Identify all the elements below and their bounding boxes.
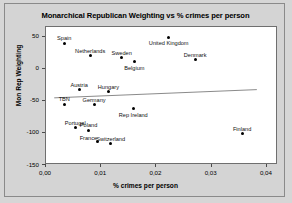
x-axis-label: % crimes per person	[5, 182, 286, 189]
data-point-label: Austria	[70, 82, 87, 88]
data-point	[167, 36, 170, 39]
x-tick-mark	[45, 164, 46, 167]
data-point-label: Netherlands	[75, 48, 105, 54]
data-point-label: Belgium	[124, 65, 144, 71]
data-point-label: Finland	[233, 126, 251, 132]
x-tick-mark	[100, 164, 101, 167]
data-point-label: Spain	[57, 35, 71, 41]
y-tick-label: 50	[11, 32, 39, 39]
y-tick-mark	[42, 68, 45, 69]
data-point	[241, 132, 244, 135]
x-tick-label: 0,00	[31, 169, 59, 176]
x-tick-mark	[155, 164, 156, 167]
y-tick-label: -100	[11, 128, 39, 135]
plot-area: SpainNetherlandsSwedenBelgiumUnited King…	[45, 26, 277, 164]
data-point-label: TBN	[59, 96, 70, 102]
data-point	[93, 103, 96, 106]
data-point	[132, 107, 135, 110]
y-tick-label: -50	[11, 96, 39, 103]
data-point-label: Hungary	[98, 84, 119, 90]
data-point-label: United Kingdom	[149, 40, 189, 46]
x-tick-mark	[266, 164, 267, 167]
data-point-label: Sweden	[112, 50, 132, 56]
x-tick-label: 0,03	[197, 169, 225, 176]
chart-figure: Monarchical Republican Weighting vs % cr…	[4, 3, 285, 197]
y-tick-label: -150	[11, 161, 39, 168]
data-point-label: France	[80, 135, 97, 141]
data-point	[194, 58, 197, 61]
x-tick-mark	[211, 164, 212, 167]
x-tick-label: 0,01	[86, 169, 114, 176]
data-point	[87, 129, 90, 132]
data-point-label: Poland	[80, 122, 97, 128]
y-tick-mark	[42, 100, 45, 101]
x-tick-label: 0,02	[141, 169, 169, 176]
y-tick-mark	[42, 132, 45, 133]
data-point	[63, 103, 66, 106]
chart-title: Monarchical Republican Weighting vs % cr…	[5, 11, 286, 20]
y-tick-mark	[42, 36, 45, 37]
data-point-label: Switzerland	[96, 136, 125, 142]
x-tick-label: 0,04	[252, 169, 280, 176]
data-point-label: Germany	[83, 97, 106, 103]
data-point	[63, 42, 66, 45]
data-point-label: Denmark	[184, 52, 207, 58]
data-point-label: Rep Ireland	[119, 112, 148, 118]
y-tick-label: 0	[11, 64, 39, 71]
